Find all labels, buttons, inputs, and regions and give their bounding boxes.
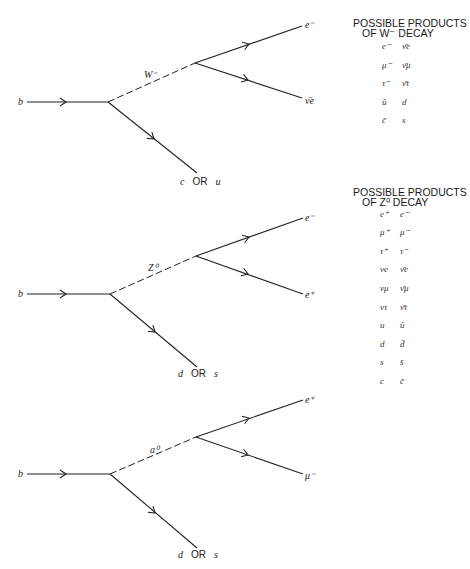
- spectator-a: d: [178, 549, 183, 560]
- spectator-label: dORs: [178, 550, 218, 560]
- legend-row: μ⁻ν̄μ: [382, 60, 422, 70]
- upper-product-label: e⁻: [305, 20, 314, 30]
- legend-row: νμν̄μ: [380, 283, 420, 293]
- boson-label: a⁰: [150, 445, 159, 455]
- incoming-quark-label: b: [18, 289, 23, 299]
- legend-row: uū: [380, 320, 420, 330]
- spectator-a: c: [180, 176, 184, 187]
- spectator-b: s: [214, 549, 218, 560]
- legend-subtitle: OF Z⁰ DECAY: [353, 197, 470, 207]
- spectator-quark-line: [108, 102, 197, 173]
- or-text: OR: [191, 368, 206, 379]
- lower-product-label: μ⁻: [305, 471, 315, 481]
- legend-row: τ⁺τ⁻: [380, 246, 420, 256]
- spectator-label: cORu: [180, 177, 220, 187]
- diagram-a0-decay: [27, 400, 303, 548]
- legend-subtitle: OF W⁻ DECAY: [353, 28, 470, 38]
- legend-row: μ⁺μ⁻: [380, 227, 420, 237]
- or-text: OR: [192, 176, 207, 187]
- legend-row: dd̄: [380, 339, 420, 349]
- z-decay-products-legend: POSSIBLE PRODUCTS OF Z⁰ DECAY e⁺e⁻ μ⁺μ⁻ …: [353, 187, 470, 387]
- lower-lepton-line: [195, 63, 302, 98]
- legend-row: ūd: [382, 97, 422, 107]
- legend-row: ντν̄τ: [380, 302, 420, 312]
- legend-row: ss̄: [380, 357, 420, 367]
- diagram-z-decay: [27, 218, 303, 367]
- legend-row: τ⁻ν̄τ: [382, 78, 422, 88]
- legend-row: cc̄: [380, 376, 420, 386]
- lower-product-label: ν̄e: [305, 96, 314, 106]
- upper-product-label: e⁺: [305, 395, 314, 405]
- legend-row: c̄s: [382, 115, 422, 125]
- upper-product-label: e⁻: [305, 213, 314, 223]
- incoming-quark-label: b: [18, 469, 23, 479]
- incoming-quark-label: b: [18, 97, 23, 107]
- or-text: OR: [191, 549, 206, 560]
- legend-row: νeν̄e: [380, 264, 420, 274]
- spectator-b: s: [214, 368, 218, 379]
- w-decay-products-legend: POSSIBLE PRODUCTS OF W⁻ DECAY e⁻ν̄e μ⁻ν̄…: [353, 18, 470, 168]
- spectator-label: dORs: [178, 369, 218, 379]
- boson-label: Z⁰: [148, 263, 158, 273]
- spectator-a: d: [178, 368, 183, 379]
- lower-product-label: e⁺: [305, 290, 314, 300]
- boson-label: W⁻: [144, 70, 157, 80]
- legend-row: e⁻ν̄e: [382, 41, 422, 51]
- legend-row: e⁺e⁻: [380, 209, 420, 219]
- spectator-b: u: [215, 176, 220, 187]
- diagram-w-decay: [27, 26, 302, 173]
